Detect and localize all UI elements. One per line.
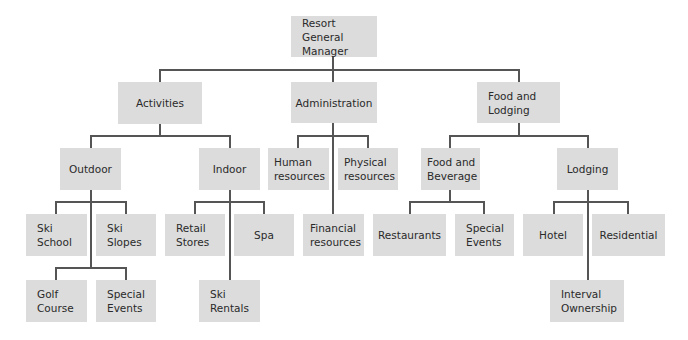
node-financial-resources: Financial resources [303, 214, 364, 256]
node-resort-general-manager: Resort General Manager [291, 16, 377, 57]
connector [55, 267, 57, 280]
node-administration: Administration [291, 82, 377, 123]
node-label: Restaurants [378, 228, 441, 242]
node-label: Golf Course [37, 287, 74, 315]
node-label: Residential [600, 228, 658, 242]
connector [229, 190, 231, 280]
node-label: Ski School [37, 221, 72, 249]
connector [55, 201, 127, 203]
connector [90, 135, 92, 148]
connector [229, 135, 231, 148]
connector [332, 69, 334, 82]
node-restaurants: Restaurants [373, 214, 446, 256]
connector [483, 201, 485, 214]
connector [297, 135, 299, 148]
node-ski-school: Ski School [26, 214, 87, 256]
connector [627, 201, 629, 214]
connector [409, 201, 411, 214]
node-label: Resort General Manager [302, 16, 377, 58]
node-food-and-lodging: Food and Lodging [477, 82, 560, 123]
node-ski-rentals: Ski Rentals [199, 280, 260, 322]
connector [55, 201, 57, 214]
node-label: Ski Slopes [107, 221, 142, 249]
node-hotel: Hotel [523, 214, 583, 256]
connector [194, 201, 196, 214]
node-label: Activities [136, 96, 184, 110]
node-label: Retail Stores [176, 221, 209, 249]
node-ski-slopes: Ski Slopes [96, 214, 156, 256]
connector [55, 267, 127, 269]
connector [90, 135, 231, 137]
node-lodging: Lodging [557, 148, 618, 190]
connector [449, 135, 451, 148]
node-label: Special Events [107, 287, 145, 315]
node-golf-course: Golf Course [26, 280, 87, 322]
node-human-resources: Human resources [268, 148, 329, 190]
node-physical-resources: Physical resources [338, 148, 398, 190]
node-retail-stores: Retail Stores [165, 214, 225, 256]
node-special-events-outdoor: Special Events [96, 280, 156, 322]
node-label: Interval Ownership [561, 287, 617, 315]
node-label: Indoor [213, 162, 247, 176]
node-label: Food and Lodging [488, 89, 536, 117]
node-label: Physical resources [344, 155, 395, 183]
connector [409, 201, 485, 203]
node-label: Spa [254, 228, 274, 242]
connector [553, 201, 629, 203]
node-label: Financial resources [310, 221, 361, 249]
node-label: Lodging [567, 162, 609, 176]
connector [518, 69, 520, 82]
connector [159, 69, 161, 82]
connector [449, 135, 589, 137]
node-label: Special Events [466, 221, 504, 249]
node-label: Human resources [274, 155, 325, 183]
node-special-events-fb: Special Events [455, 214, 514, 256]
connector [587, 190, 589, 280]
node-outdoor: Outdoor [60, 148, 121, 190]
node-interval-ownership: Interval Ownership [550, 280, 624, 322]
node-food-and-beverage: Food and Beverage [421, 148, 480, 190]
node-spa: Spa [234, 214, 294, 256]
connector [159, 69, 520, 71]
connector [367, 135, 369, 148]
node-label: Ski Rentals [210, 287, 249, 315]
connector [263, 201, 265, 214]
connector [297, 135, 369, 137]
connector [125, 201, 127, 214]
node-label: Food and Beverage [427, 155, 477, 183]
node-label: Outdoor [69, 162, 112, 176]
connector [125, 267, 127, 280]
node-indoor: Indoor [199, 148, 260, 190]
connector [587, 135, 589, 148]
connector [553, 201, 555, 214]
org-chart: Resort General Manager Activities Admini… [0, 0, 688, 340]
node-activities: Activities [118, 82, 202, 124]
node-label: Administration [296, 96, 373, 110]
connector [194, 201, 265, 203]
node-residential: Residential [592, 214, 665, 256]
node-label: Hotel [539, 228, 567, 242]
